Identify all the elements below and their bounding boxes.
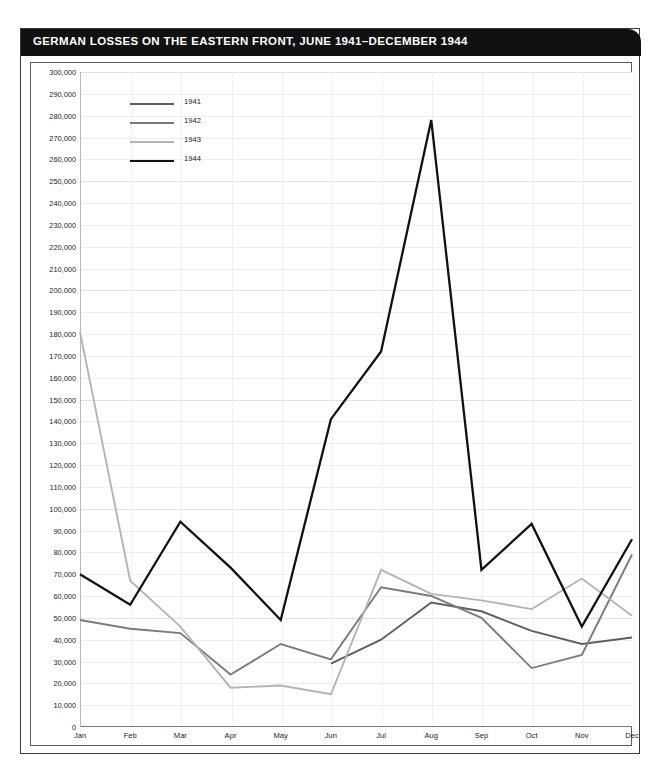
gridline-horizontal <box>81 640 632 641</box>
y-axis-tick-label: 50,000 <box>53 613 76 622</box>
legend-label-1943: 1943 <box>184 135 201 144</box>
gridline-horizontal <box>81 269 632 270</box>
gridline-horizontal <box>81 356 632 357</box>
gridline-horizontal <box>81 72 632 73</box>
x-axis-tick-label: May <box>274 731 288 740</box>
legend-item-1944[interactable]: 1944 <box>130 152 260 171</box>
gridline-vertical <box>332 72 333 726</box>
gridline-vertical <box>432 72 433 726</box>
legend-label-1941: 1941 <box>184 97 201 106</box>
x-axis-tick-label: Dec <box>625 731 639 740</box>
x-axis-tick-label: Oct <box>526 731 538 740</box>
y-axis-tick-label: 240,000 <box>49 199 76 208</box>
y-axis-tick-label: 260,000 <box>49 155 76 164</box>
x-axis-tick-label: Mar <box>174 731 187 740</box>
y-axis-tick-label: 150,000 <box>49 395 76 404</box>
x-axis-tick-label: Apr <box>225 731 237 740</box>
legend-item-1941[interactable]: 1941 <box>130 95 260 114</box>
gridline-vertical <box>382 72 383 726</box>
y-axis-tick-label: 60,000 <box>53 592 76 601</box>
gridline-horizontal <box>81 487 632 488</box>
y-axis-tick-label: 160,000 <box>49 373 76 382</box>
gridline-horizontal <box>81 247 632 248</box>
x-axis-tick-label: Nov <box>575 731 589 740</box>
y-axis-tick-label: 190,000 <box>49 308 76 317</box>
gridline-horizontal <box>81 203 632 204</box>
y-axis-tick-label: 180,000 <box>49 330 76 339</box>
gridline-horizontal <box>81 378 632 379</box>
gridline-horizontal <box>81 225 632 226</box>
gridline-horizontal <box>81 443 632 444</box>
gridline-horizontal <box>81 662 632 663</box>
y-axis-tick-label: 40,000 <box>53 635 76 644</box>
gridline-horizontal <box>81 290 632 291</box>
y-axis-labels: 010,00020,00030,00040,00050,00060,00070,… <box>0 0 76 774</box>
gridline-horizontal <box>81 465 632 466</box>
gridline-vertical <box>282 72 283 726</box>
gridline-vertical <box>533 72 534 726</box>
y-axis-tick-label: 220,000 <box>49 242 76 251</box>
x-axis-tick-label: Jan <box>74 731 86 740</box>
gridline-horizontal <box>81 421 632 422</box>
legend-label-1942: 1942 <box>184 116 201 125</box>
gridline-vertical <box>482 72 483 726</box>
gridline-vertical <box>633 72 634 726</box>
gridline-horizontal <box>81 181 632 182</box>
gridline-vertical <box>583 72 584 726</box>
y-axis-tick-label: 300,000 <box>49 68 76 77</box>
y-axis-tick-label: 10,000 <box>53 701 76 710</box>
chart-page: GERMAN LOSSES ON THE EASTERN FRONT, JUNE… <box>0 0 660 774</box>
y-axis-tick-label: 130,000 <box>49 439 76 448</box>
page-title: GERMAN LOSSES ON THE EASTERN FRONT, JUNE… <box>33 35 468 47</box>
y-axis-tick-label: 290,000 <box>49 89 76 98</box>
y-axis-tick-label: 80,000 <box>53 548 76 557</box>
x-axis-tick-label: Feb <box>124 731 137 740</box>
gridline-horizontal <box>81 574 632 575</box>
legend-item-1942[interactable]: 1942 <box>130 114 260 133</box>
gridline-horizontal <box>81 509 632 510</box>
x-axis-tick-label: Jul <box>376 731 386 740</box>
legend-item-1943[interactable]: 1943 <box>130 133 260 152</box>
chart-legend: 1941194219431944 <box>130 95 260 171</box>
legend-swatch-1942 <box>130 122 174 124</box>
y-axis-tick-label: 100,000 <box>49 504 76 513</box>
gridline-horizontal <box>81 312 632 313</box>
y-axis-tick-label: 120,000 <box>49 461 76 470</box>
legend-swatch-1944 <box>130 160 174 162</box>
y-axis-tick-label: 280,000 <box>49 111 76 120</box>
x-axis-tick-label: Jun <box>325 731 337 740</box>
legend-swatch-1941 <box>130 103 174 105</box>
y-axis-tick-label: 230,000 <box>49 220 76 229</box>
y-axis-tick-label: 200,000 <box>49 286 76 295</box>
y-axis-tick-label: 110,000 <box>50 482 76 491</box>
y-axis-tick-label: 250,000 <box>49 177 76 186</box>
y-axis-tick-label: 140,000 <box>49 417 76 426</box>
gridline-horizontal <box>81 683 632 684</box>
gridline-horizontal <box>81 400 632 401</box>
x-axis-tick-label: Sep <box>475 731 489 740</box>
x-axis-tick-label: Aug <box>425 731 439 740</box>
y-axis-tick-label: 30,000 <box>53 657 76 666</box>
gridline-horizontal <box>81 618 632 619</box>
gridline-horizontal <box>81 552 632 553</box>
gridline-horizontal <box>81 596 632 597</box>
gridline-horizontal <box>81 705 632 706</box>
title-banner: GERMAN LOSSES ON THE EASTERN FRONT, JUNE… <box>21 29 641 56</box>
gridline-horizontal <box>81 531 632 532</box>
gridline-horizontal <box>81 334 632 335</box>
y-axis-tick-label: 20,000 <box>53 679 76 688</box>
y-axis-tick-label: 270,000 <box>49 133 76 142</box>
y-axis-tick-label: 70,000 <box>53 570 76 579</box>
y-axis-tick-label: 210,000 <box>49 264 76 273</box>
y-axis-tick-label: 170,000 <box>49 351 76 360</box>
legend-label-1944: 1944 <box>184 154 201 163</box>
legend-swatch-1943 <box>130 141 174 143</box>
y-axis-tick-label: 90,000 <box>53 526 76 535</box>
